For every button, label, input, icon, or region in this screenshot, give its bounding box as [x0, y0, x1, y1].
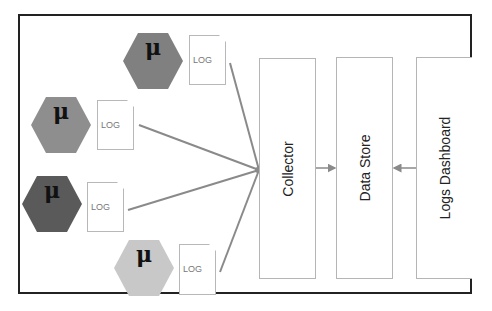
log-label: LOG — [183, 264, 202, 274]
log-document-3: LOG — [87, 182, 124, 232]
diagram-frame — [18, 14, 472, 294]
logs-dashboard-label: Logs Dashboard — [437, 117, 453, 220]
log-label: LOG — [193, 55, 212, 65]
log-label: LOG — [101, 120, 120, 130]
log-label: LOG — [91, 202, 110, 212]
collector-box: Collector — [259, 58, 316, 279]
data-store-box: Data Store — [336, 57, 393, 279]
log-document-2: LOG — [97, 100, 134, 150]
data-store-label: Data Store — [357, 135, 373, 202]
logs-dashboard-box: Logs Dashboard — [416, 57, 472, 279]
collector-label: Collector — [280, 141, 296, 196]
log-document-4: LOG — [179, 244, 216, 295]
log-document-1: LOG — [189, 35, 226, 85]
